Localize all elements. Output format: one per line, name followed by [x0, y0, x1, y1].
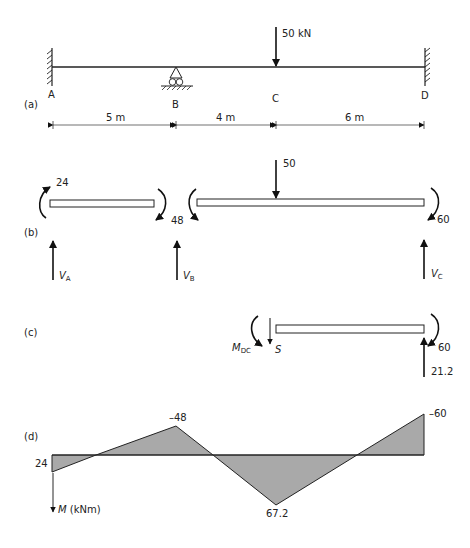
reaction-label-212: 21.2: [431, 366, 453, 377]
panel-a-beam: 50 kN A B C D (a) 5 m 4 m 6 m: [24, 27, 430, 129]
moment-label-mdc: MDC: [232, 342, 251, 355]
moment-label-b: 48: [171, 215, 184, 226]
panel-tag-b: (b): [24, 227, 38, 238]
point-load-label: 50 kN: [282, 28, 311, 39]
fixed-support-d-icon: [425, 48, 430, 86]
node-label-b: B: [172, 99, 179, 110]
moment-label-60: 60: [438, 342, 451, 353]
moment-arrow-b-left-icon: [156, 189, 166, 220]
reaction-label-b: VB: [183, 270, 195, 283]
member-cd: [276, 325, 424, 333]
panel-tag-a: (a): [24, 99, 38, 110]
node-label-d: D: [421, 90, 429, 101]
moment-label-d: 60: [437, 214, 450, 225]
bmd-region-1: [52, 455, 96, 472]
span-label-cd: 6 m: [345, 112, 364, 123]
moment-arrow-mdc-icon: [252, 316, 262, 346]
bmd-value-c: 67.2: [266, 508, 288, 519]
panel-d-bending-moment-diagram: (d) 24 –48 67.2 –60 M (kNm): [24, 408, 447, 519]
member-ab: [50, 200, 154, 207]
node-label-c: C: [272, 93, 279, 104]
panel-tag-d: (d): [24, 431, 38, 442]
bmd-value-d: –60: [429, 408, 447, 419]
load-label: 50: [283, 158, 296, 169]
span-label-ab: 5 m: [106, 112, 125, 123]
span-label-bc: 4 m: [216, 112, 235, 123]
panel-c-free-body: (c) MDC S 60 21.2: [24, 314, 453, 377]
panel-b-free-body: (b) 24 48 60 50 VA VB VC: [24, 158, 450, 283]
moment-arrow-a-icon: [40, 187, 50, 218]
bmd-value-b: –48: [169, 412, 187, 423]
bmd-region-4: [357, 414, 424, 455]
reaction-label-a: VA: [59, 270, 71, 283]
bmd-region-2: [96, 426, 213, 455]
bmd-value-a: 24: [35, 458, 48, 469]
panel-tag-c: (c): [24, 327, 37, 338]
moment-arrow-60-icon: [428, 314, 439, 346]
moment-axis-label: M (kNm): [58, 504, 101, 515]
shear-label: S: [275, 344, 282, 355]
member-bd: [197, 199, 424, 206]
bmd-region-3: [213, 455, 357, 505]
moment-label-a: 24: [56, 177, 69, 188]
beam-analysis-figure: 50 kN A B C D (a) 5 m 4 m 6 m (b) 24 48: [0, 0, 470, 548]
roller-support-b-icon: [161, 67, 193, 90]
reaction-label-c: VC: [431, 268, 443, 281]
fixed-support-a-icon: [47, 48, 52, 86]
node-label-a: A: [48, 89, 55, 100]
